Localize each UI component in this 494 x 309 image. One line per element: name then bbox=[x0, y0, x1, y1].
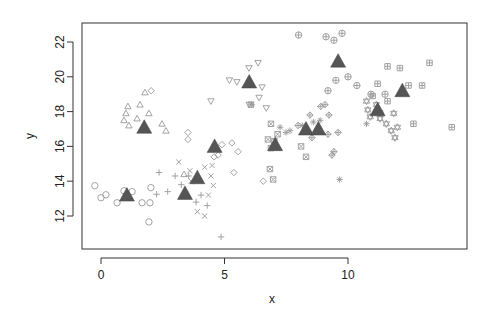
data-point-diamond-plus bbox=[335, 129, 341, 135]
data-point-diamond bbox=[229, 140, 235, 146]
data-point-triangle bbox=[137, 101, 143, 107]
data-point-square-plus bbox=[397, 65, 402, 70]
group-center-triangle bbox=[370, 102, 385, 116]
data-point-square-plus bbox=[427, 60, 432, 65]
data-point-diamond-plus bbox=[309, 135, 315, 141]
data-point-circle bbox=[148, 184, 154, 190]
data-point-star-of-david bbox=[392, 134, 398, 141]
data-point-triangle bbox=[125, 103, 131, 109]
data-point-cross bbox=[176, 160, 181, 165]
data-point-square-plus bbox=[406, 83, 411, 88]
data-point-circle bbox=[114, 200, 120, 206]
data-point-diamond bbox=[219, 141, 225, 147]
data-point-circle-plus bbox=[323, 34, 329, 40]
data-point-square-cross bbox=[265, 137, 270, 142]
data-point-asterisk bbox=[336, 176, 342, 182]
group-center-triangle bbox=[331, 54, 346, 68]
y-tick-label: 22 bbox=[53, 35, 67, 49]
data-point-diamond bbox=[231, 169, 237, 175]
x-tick-label: 5 bbox=[221, 268, 228, 282]
data-point-circle-plus bbox=[333, 77, 339, 83]
data-point-triangle bbox=[123, 110, 129, 116]
data-point-star-of-david bbox=[363, 98, 369, 105]
data-point-plus bbox=[178, 181, 184, 187]
data-point-star-of-david bbox=[394, 124, 400, 131]
data-point-circle bbox=[103, 192, 109, 198]
data-point-circle bbox=[92, 183, 98, 189]
data-point-circle-plus bbox=[331, 37, 337, 43]
data-point-plus bbox=[185, 173, 191, 179]
group-center-triangle bbox=[242, 75, 257, 89]
data-point-circle-plus bbox=[345, 74, 351, 80]
data-point-triangle bbox=[163, 128, 169, 134]
group-center-triangle bbox=[177, 186, 192, 200]
data-point-circle-plus bbox=[339, 30, 345, 36]
data-point-triangle-down bbox=[259, 85, 265, 91]
data-point-triangle bbox=[121, 117, 127, 123]
data-point-asterisk bbox=[277, 124, 283, 130]
data-point-plus bbox=[193, 199, 199, 205]
y-tick-label: 12 bbox=[53, 209, 67, 223]
data-point-star-of-david bbox=[390, 110, 396, 117]
group-center-triangle bbox=[268, 137, 283, 151]
data-point-cross bbox=[206, 193, 211, 198]
data-point-triangle bbox=[126, 122, 132, 128]
data-point-cross bbox=[202, 213, 207, 218]
data-point-circle-plus bbox=[368, 91, 374, 97]
data-point-triangle-down bbox=[263, 106, 269, 112]
y-tick-label: 20 bbox=[53, 70, 67, 84]
data-point-plus bbox=[204, 202, 210, 208]
data-points bbox=[92, 30, 455, 240]
group-center-triangle bbox=[137, 120, 152, 133]
data-point-circle bbox=[147, 200, 153, 206]
data-point-triangle-down bbox=[256, 95, 262, 101]
data-point-diamond-plus bbox=[307, 112, 313, 118]
data-point-cross bbox=[202, 165, 207, 170]
data-point-diamond bbox=[260, 178, 266, 184]
data-point-plus bbox=[172, 173, 178, 179]
data-point-asterisk bbox=[310, 119, 316, 125]
data-point-circle bbox=[139, 200, 145, 206]
data-point-square-cross bbox=[267, 166, 272, 171]
data-point-square-cross bbox=[270, 177, 275, 182]
data-point-diamond-plus bbox=[325, 131, 331, 137]
x-tick-label: 0 bbox=[98, 268, 105, 282]
data-point-asterisk bbox=[363, 121, 369, 127]
data-point-diamond bbox=[185, 129, 191, 135]
data-point-cross bbox=[211, 183, 216, 188]
data-point-cross bbox=[210, 163, 215, 168]
data-point-diamond-plus bbox=[318, 103, 324, 109]
data-point-cross bbox=[195, 209, 200, 214]
group-center-triangle bbox=[119, 188, 134, 202]
data-point-diamond bbox=[185, 136, 191, 142]
data-point-circle-plus bbox=[382, 91, 388, 97]
data-point-square-cross bbox=[268, 121, 273, 126]
data-point-star-of-david bbox=[383, 120, 389, 127]
data-point-square-plus bbox=[449, 125, 454, 130]
data-point-circle-plus bbox=[325, 88, 331, 94]
data-point-plus bbox=[198, 192, 204, 198]
group-center-triangle bbox=[190, 170, 205, 184]
data-point-square-plus bbox=[385, 98, 390, 103]
data-point-triangle-down bbox=[255, 60, 261, 66]
data-point-square-plus bbox=[385, 64, 390, 69]
data-point-triangle-down bbox=[246, 66, 252, 72]
data-point-triangle bbox=[146, 110, 152, 116]
data-point-plus bbox=[164, 188, 170, 194]
scatter-plot: 0510 121416182022 x y bbox=[0, 0, 494, 309]
data-point-plus bbox=[218, 234, 224, 240]
data-point-circle bbox=[146, 219, 152, 225]
data-point-cross bbox=[208, 173, 213, 178]
data-point-circle-plus bbox=[295, 32, 301, 38]
data-point-triangle bbox=[142, 89, 148, 95]
data-point-star-of-david bbox=[388, 127, 394, 134]
data-point-asterisk bbox=[283, 129, 289, 135]
data-point-plus bbox=[156, 169, 162, 175]
y-axis: 121416182022 bbox=[53, 35, 73, 223]
y-tick-label: 16 bbox=[53, 139, 67, 153]
data-point-square-cross bbox=[275, 132, 280, 137]
y-tick-label: 14 bbox=[53, 174, 67, 188]
data-point-plus bbox=[153, 191, 159, 197]
data-point-square-cross bbox=[303, 154, 308, 159]
data-point-triangle bbox=[159, 121, 165, 127]
